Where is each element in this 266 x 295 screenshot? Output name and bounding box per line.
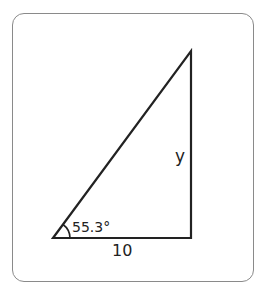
right-triangle — [53, 51, 191, 238]
base-label: 10 — [112, 241, 132, 260]
angle-label: 55.3° — [72, 219, 110, 235]
angle-arc — [63, 225, 70, 239]
height-label: y — [175, 146, 185, 166]
triangle-diagram: 55.3° 10 y — [0, 0, 266, 295]
